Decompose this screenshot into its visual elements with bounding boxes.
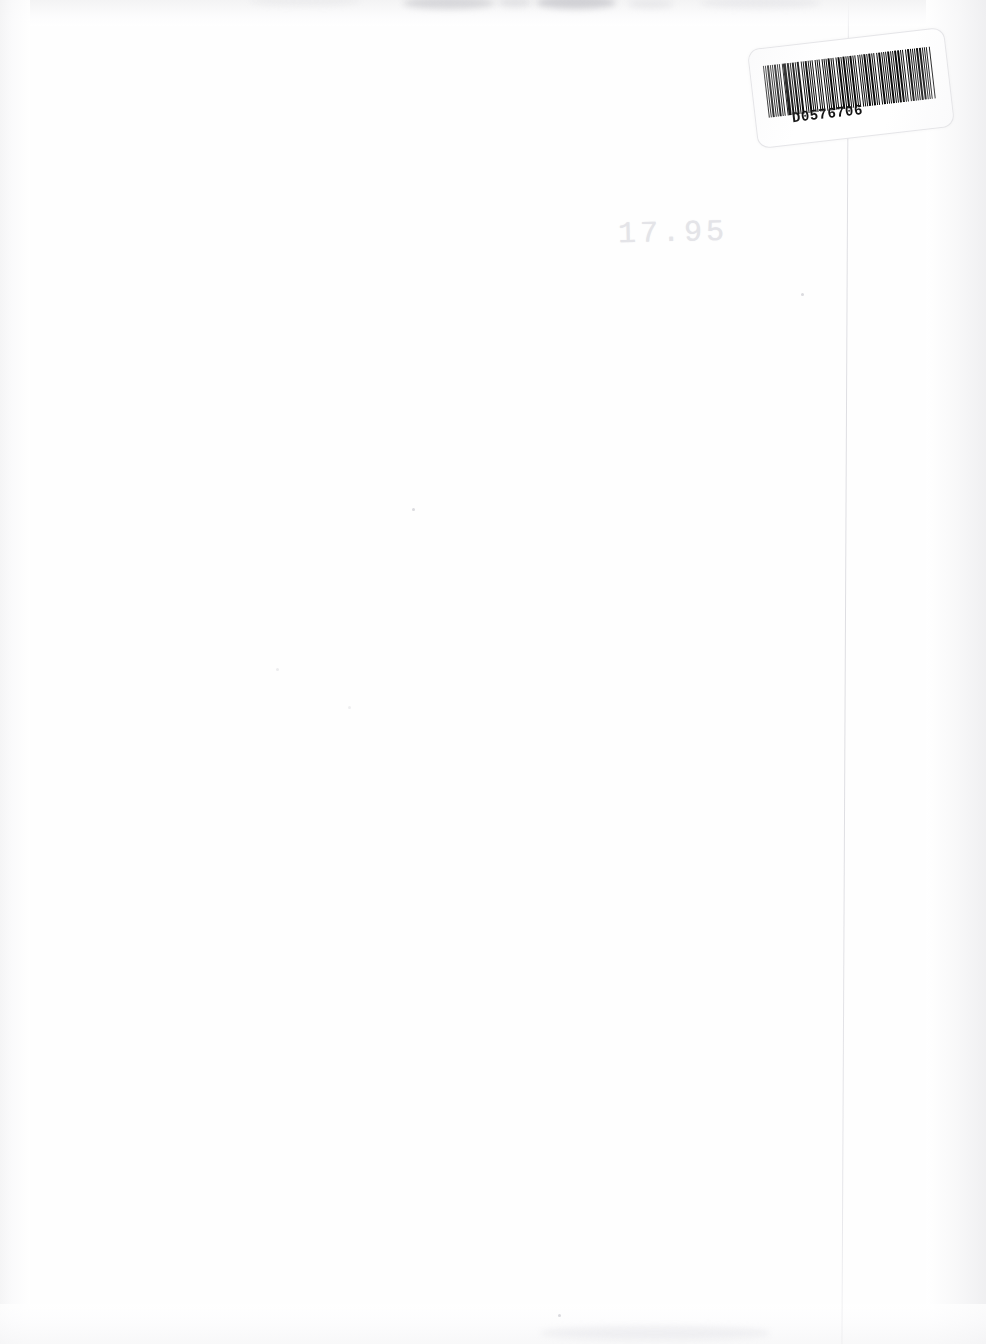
top-edge-smudge	[628, 0, 674, 8]
price-marking: 17.95	[618, 215, 729, 251]
scanned-page: 17.95 D0576706	[0, 0, 986, 1344]
right-edge-shading	[926, 0, 986, 1344]
paper-speck	[412, 508, 415, 511]
barcode-label-inner: D0576706	[748, 28, 954, 148]
paper-speck	[801, 293, 804, 296]
bottom-edge-shading	[0, 1304, 986, 1344]
bottom-edge-smudge	[540, 1326, 770, 1340]
paper-speck	[348, 706, 351, 709]
paper-speck	[558, 1314, 561, 1317]
left-edge-shading	[0, 0, 30, 1344]
paper-speck	[276, 668, 279, 671]
paper-background	[0, 0, 986, 1344]
